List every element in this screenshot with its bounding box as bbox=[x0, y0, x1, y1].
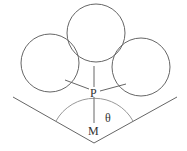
circle-left bbox=[21, 34, 79, 92]
wedge-left-side bbox=[13, 97, 94, 143]
circle-right bbox=[112, 38, 170, 96]
line-right-to-p bbox=[100, 84, 126, 91]
three-circles-wedge-diagram: P M θ bbox=[0, 0, 187, 151]
line-left-to-p bbox=[65, 80, 89, 89]
circle-top bbox=[67, 4, 125, 62]
label-theta: θ bbox=[105, 111, 111, 125]
label-p: P bbox=[90, 86, 97, 100]
label-m: M bbox=[88, 124, 99, 138]
